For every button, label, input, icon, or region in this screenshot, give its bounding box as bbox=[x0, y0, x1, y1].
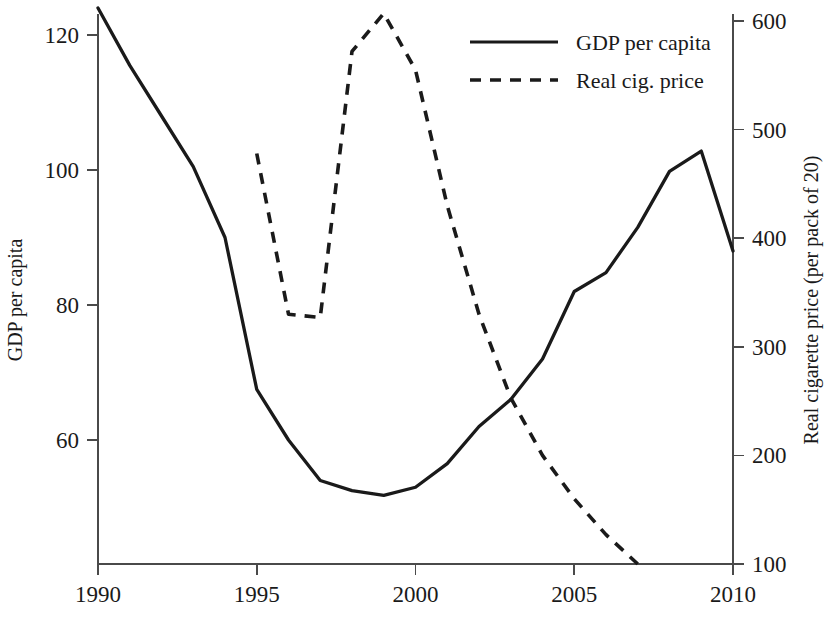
y-tick-label: 100 bbox=[45, 158, 80, 183]
left-axis-ticks: 6080100120 bbox=[45, 23, 99, 453]
left-axis-group: 6080100120 GDP per capita bbox=[4, 14, 98, 564]
y2-tick-label: 200 bbox=[752, 443, 787, 468]
y-tick-label: 60 bbox=[56, 428, 79, 453]
x-tick-label: 1990 bbox=[75, 582, 121, 607]
right-axis-title: Real cigarette price (per pack of 20) bbox=[800, 156, 823, 445]
y2-tick-label: 300 bbox=[752, 335, 787, 360]
y2-tick-label: 500 bbox=[752, 118, 787, 143]
y-tick-label: 120 bbox=[45, 23, 80, 48]
chart-figure: 6080100120 GDP per capita 19901995200020… bbox=[0, 0, 838, 621]
chart-legend: GDP per capitaReal cig. price bbox=[470, 30, 711, 93]
right-axis-ticks: 100200300400500600 bbox=[733, 9, 787, 577]
x-tick-label: 2010 bbox=[710, 582, 756, 607]
x-tick-label: 2000 bbox=[393, 582, 439, 607]
chart-svg: 6080100120 GDP per capita 19901995200020… bbox=[0, 0, 838, 621]
legend-label: GDP per capita bbox=[576, 30, 711, 55]
y-tick-label: 80 bbox=[56, 293, 79, 318]
bottom-axis-group: 19901995200020052010 bbox=[75, 564, 756, 607]
x-tick-label: 2005 bbox=[551, 582, 597, 607]
y2-tick-label: 600 bbox=[752, 9, 787, 34]
y2-tick-label: 400 bbox=[752, 226, 787, 251]
right-axis-group: 100200300400500600 Real cigarette price … bbox=[733, 9, 823, 577]
legend-label: Real cig. price bbox=[576, 68, 704, 93]
x-tick-label: 1995 bbox=[234, 582, 280, 607]
x-axis-ticks: 19901995200020052010 bbox=[75, 564, 756, 607]
y2-tick-label: 100 bbox=[752, 552, 787, 577]
left-axis-title: GDP per capita bbox=[4, 239, 27, 362]
